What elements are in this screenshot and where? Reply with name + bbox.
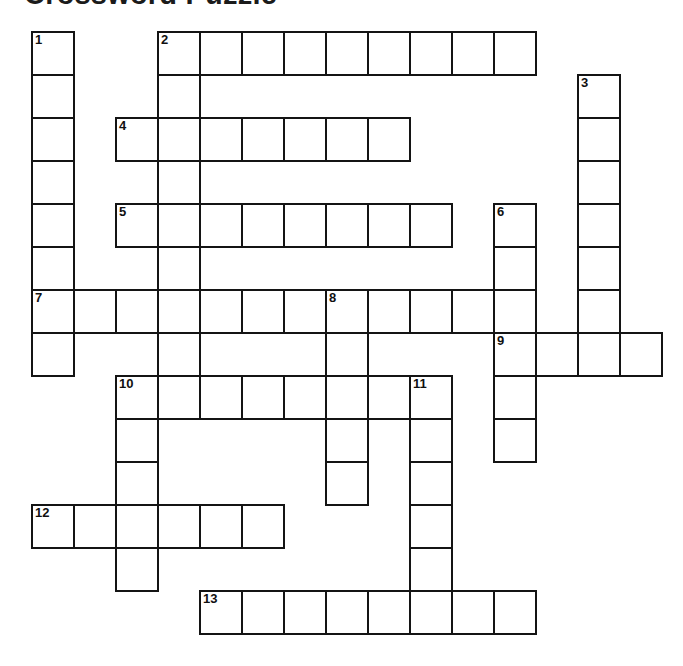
grid-cell[interactable]: 6 bbox=[493, 203, 537, 248]
grid-cell[interactable] bbox=[451, 289, 495, 334]
grid-cell[interactable] bbox=[31, 203, 75, 248]
grid-cell[interactable] bbox=[493, 289, 537, 334]
grid-cell[interactable] bbox=[451, 31, 495, 76]
grid-cell[interactable] bbox=[115, 547, 159, 592]
grid-cell[interactable] bbox=[115, 461, 159, 506]
grid-cell[interactable] bbox=[157, 74, 201, 119]
grid-cell[interactable] bbox=[31, 332, 75, 377]
grid-cell[interactable] bbox=[157, 160, 201, 205]
cell-number: 4 bbox=[119, 119, 126, 133]
grid-cell[interactable] bbox=[73, 504, 117, 549]
grid-cell[interactable] bbox=[241, 117, 285, 162]
grid-cell[interactable] bbox=[115, 504, 159, 549]
grid-cell[interactable] bbox=[409, 504, 453, 549]
grid-cell[interactable] bbox=[367, 289, 411, 334]
grid-cell[interactable] bbox=[577, 203, 621, 248]
grid-cell[interactable] bbox=[325, 332, 369, 377]
grid-cell[interactable] bbox=[31, 74, 75, 119]
grid-cell[interactable] bbox=[367, 203, 411, 248]
grid-cell[interactable] bbox=[367, 117, 411, 162]
cell-number: 9 bbox=[497, 334, 504, 348]
grid-cell[interactable] bbox=[493, 375, 537, 420]
grid-cell[interactable] bbox=[409, 418, 453, 463]
grid-cell[interactable] bbox=[409, 31, 453, 76]
grid-cell[interactable] bbox=[493, 590, 537, 635]
grid-cell[interactable]: 9 bbox=[493, 332, 537, 377]
grid-cell[interactable] bbox=[325, 203, 369, 248]
grid-cell[interactable]: 3 bbox=[577, 74, 621, 119]
grid-cell[interactable] bbox=[367, 590, 411, 635]
grid-cell[interactable] bbox=[325, 375, 369, 420]
grid-cell[interactable]: 2 bbox=[157, 31, 201, 76]
grid-cell[interactable] bbox=[157, 246, 201, 291]
grid-cell[interactable] bbox=[493, 31, 537, 76]
grid-cell[interactable] bbox=[451, 590, 495, 635]
grid-cell[interactable] bbox=[283, 375, 327, 420]
grid-cell[interactable] bbox=[241, 504, 285, 549]
grid-cell[interactable] bbox=[31, 246, 75, 291]
grid-cell[interactable] bbox=[199, 375, 243, 420]
grid-cell[interactable] bbox=[493, 418, 537, 463]
grid-cell[interactable] bbox=[73, 289, 117, 334]
grid-cell[interactable] bbox=[283, 117, 327, 162]
grid-cell[interactable] bbox=[325, 461, 369, 506]
grid-cell[interactable] bbox=[241, 590, 285, 635]
grid-cell[interactable] bbox=[409, 461, 453, 506]
crossword-grid[interactable]: 12345678910111213 bbox=[0, 0, 683, 666]
grid-cell[interactable] bbox=[31, 160, 75, 205]
grid-cell[interactable] bbox=[157, 289, 201, 334]
grid-cell[interactable] bbox=[283, 289, 327, 334]
grid-cell[interactable] bbox=[577, 289, 621, 334]
grid-cell[interactable] bbox=[535, 332, 579, 377]
grid-cell[interactable]: 4 bbox=[115, 117, 159, 162]
grid-cell[interactable] bbox=[199, 504, 243, 549]
grid-cell[interactable] bbox=[409, 203, 453, 248]
grid-cell[interactable] bbox=[115, 289, 159, 334]
grid-cell[interactable] bbox=[241, 31, 285, 76]
grid-cell[interactable] bbox=[577, 332, 621, 377]
grid-cell[interactable] bbox=[325, 590, 369, 635]
grid-cell[interactable] bbox=[157, 117, 201, 162]
grid-cell[interactable] bbox=[367, 31, 411, 76]
grid-cell[interactable]: 13 bbox=[199, 590, 243, 635]
grid-cell[interactable] bbox=[199, 117, 243, 162]
grid-cell[interactable] bbox=[241, 289, 285, 334]
grid-cell[interactable] bbox=[325, 117, 369, 162]
cell-number: 11 bbox=[413, 377, 427, 391]
grid-cell[interactable]: 12 bbox=[31, 504, 75, 549]
grid-cell[interactable]: 11 bbox=[409, 375, 453, 420]
grid-cell[interactable] bbox=[577, 246, 621, 291]
grid-cell[interactable] bbox=[157, 332, 201, 377]
grid-cell[interactable] bbox=[157, 504, 201, 549]
grid-cell[interactable]: 8 bbox=[325, 289, 369, 334]
cell-number: 13 bbox=[203, 592, 217, 606]
grid-cell[interactable] bbox=[409, 590, 453, 635]
grid-cell[interactable] bbox=[31, 117, 75, 162]
grid-cell[interactable] bbox=[157, 203, 201, 248]
grid-cell[interactable]: 7 bbox=[31, 289, 75, 334]
grid-cell[interactable] bbox=[199, 289, 243, 334]
cell-number: 2 bbox=[161, 33, 168, 47]
grid-cell[interactable] bbox=[577, 117, 621, 162]
grid-cell[interactable] bbox=[157, 375, 201, 420]
grid-cell[interactable] bbox=[283, 203, 327, 248]
grid-cell[interactable] bbox=[409, 547, 453, 592]
grid-cell[interactable]: 10 bbox=[115, 375, 159, 420]
grid-cell[interactable] bbox=[115, 418, 159, 463]
cell-number: 1 bbox=[35, 33, 42, 47]
grid-cell[interactable] bbox=[199, 31, 243, 76]
grid-cell[interactable] bbox=[199, 203, 243, 248]
grid-cell[interactable] bbox=[241, 375, 285, 420]
grid-cell[interactable] bbox=[325, 418, 369, 463]
grid-cell[interactable] bbox=[409, 289, 453, 334]
grid-cell[interactable]: 5 bbox=[115, 203, 159, 248]
grid-cell[interactable] bbox=[367, 375, 411, 420]
grid-cell[interactable] bbox=[241, 203, 285, 248]
grid-cell[interactable] bbox=[619, 332, 663, 377]
grid-cell[interactable] bbox=[283, 590, 327, 635]
grid-cell[interactable]: 1 bbox=[31, 31, 75, 76]
grid-cell[interactable] bbox=[283, 31, 327, 76]
grid-cell[interactable] bbox=[493, 246, 537, 291]
grid-cell[interactable] bbox=[325, 31, 369, 76]
grid-cell[interactable] bbox=[577, 160, 621, 205]
